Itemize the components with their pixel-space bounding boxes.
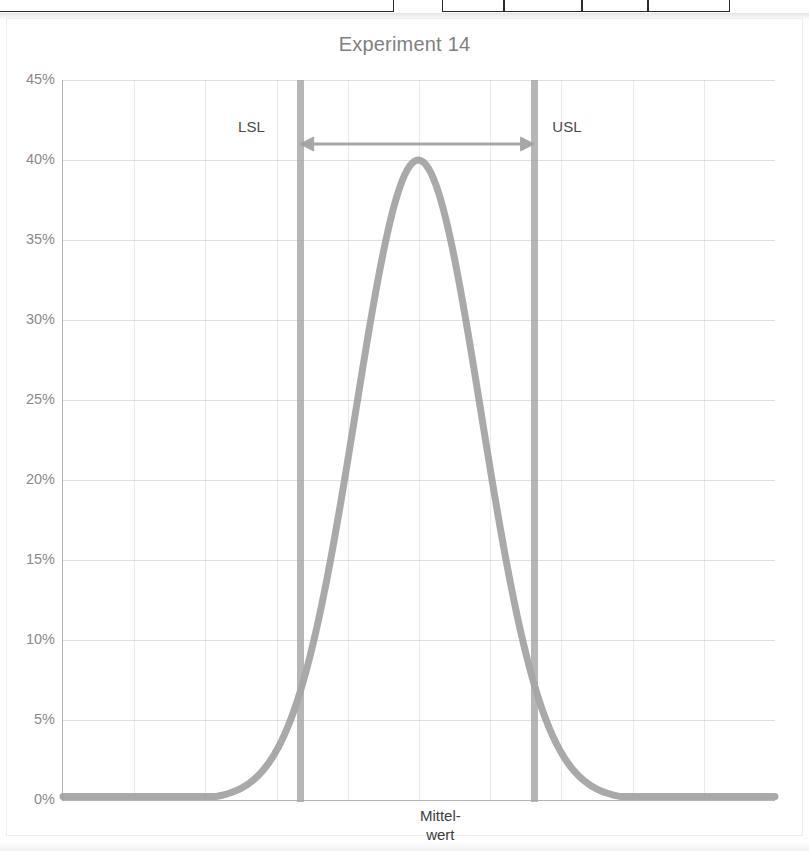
y-axis-tick-label: 35% bbox=[0, 232, 55, 247]
y-axis-tick-label: 20% bbox=[0, 472, 55, 487]
bottom-scan-fade bbox=[0, 841, 809, 851]
usl-line bbox=[531, 80, 538, 802]
y-axis-tick-label: 5% bbox=[0, 712, 55, 727]
tolerance-arrow bbox=[300, 133, 534, 155]
chart-page: Experiment 14 45%40%35%30%25%20%15%10%5%… bbox=[0, 0, 809, 851]
y-axis-tick-label: 10% bbox=[0, 632, 55, 647]
cutoff-table-cell bbox=[0, 0, 394, 12]
cutoff-table-cell bbox=[648, 0, 730, 12]
chart-title: Experiment 14 bbox=[0, 30, 809, 58]
cutoff-table-cell bbox=[582, 0, 648, 12]
mean-value-label: Mittel- wert bbox=[365, 806, 515, 844]
mean-label-line1: Mittel- bbox=[365, 806, 515, 825]
cutoff-table-cell bbox=[504, 0, 582, 12]
plot-area: 45%40%35%30%25%20%15%10%5%0% LSL USL bbox=[63, 80, 775, 800]
y-axis-tick-label: 30% bbox=[0, 312, 55, 327]
y-axis-tick-label: 45% bbox=[0, 72, 55, 87]
chart-container: Experiment 14 45%40%35%30%25%20%15%10%5%… bbox=[0, 16, 809, 851]
cutoff-table-cell bbox=[442, 0, 504, 12]
y-axis-tick-label: 25% bbox=[0, 392, 55, 407]
y-axis-tick-label: 40% bbox=[0, 152, 55, 167]
distribution-curve bbox=[63, 80, 775, 801]
lsl-line bbox=[297, 80, 304, 802]
lsl-label: LSL bbox=[238, 118, 265, 136]
y-axis-tick-label: 15% bbox=[0, 552, 55, 567]
cutoff-table-row bbox=[0, 0, 809, 14]
usl-label: USL bbox=[552, 118, 581, 136]
y-axis-tick-label: 0% bbox=[0, 792, 55, 807]
